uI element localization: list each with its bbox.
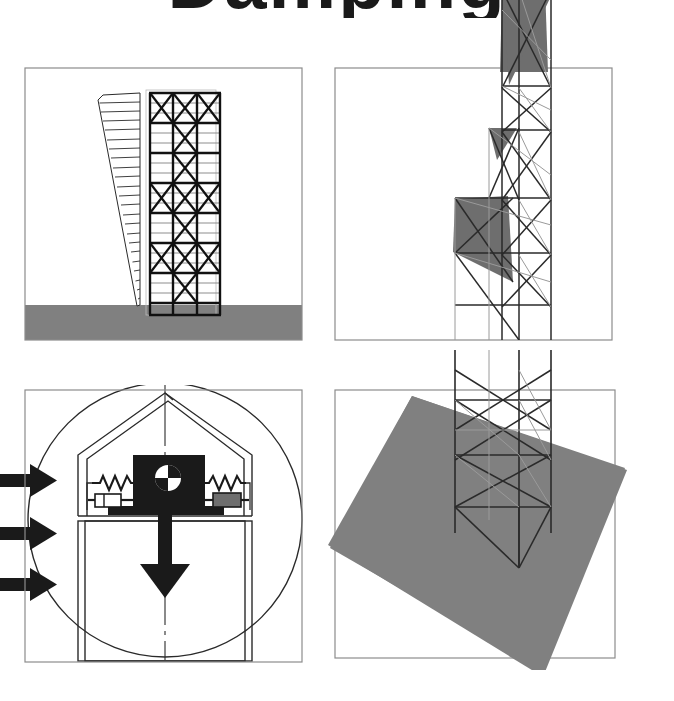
load-arrow-1 (0, 464, 57, 497)
center-of-gravity-icon (155, 465, 181, 491)
spring-left (92, 476, 133, 490)
ground-fill (18, 305, 310, 347)
ground-plane-rotated-b (330, 396, 627, 672)
dashpot-left (88, 494, 133, 507)
figure-title-clip: Damping (0, 0, 674, 18)
panel-bottom-right (328, 350, 627, 675)
deflection-diagram (98, 93, 140, 306)
page-title: Damping (0, 0, 674, 18)
panel-top-right (335, 0, 612, 350)
lateral-load-arrows (0, 464, 57, 601)
figure-canvas: Damping (0, 0, 674, 701)
load-arrow-3 (0, 568, 57, 601)
gravity-arrow (140, 512, 190, 598)
panel-top-left (18, 68, 310, 347)
figure-svg (0, 0, 674, 701)
spring-right (205, 476, 246, 490)
dashpot-right (205, 493, 249, 507)
three-d-tower-upper (453, 0, 551, 350)
panel-bottom-left (0, 370, 302, 662)
braced-tower (149, 93, 221, 315)
panel-frame-top-left (25, 68, 302, 340)
